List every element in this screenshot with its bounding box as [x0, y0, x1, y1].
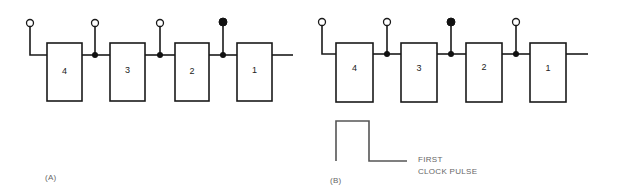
figure-a-output-open-circle-icon	[27, 20, 34, 27]
figure-a-output-open-circle-icon	[157, 20, 164, 27]
figure-b-output-open-circle-icon	[319, 19, 326, 26]
figure-a-output-filled-circle-icon	[219, 18, 227, 26]
clock-pulse-waveform	[336, 121, 407, 161]
figure-a-junction-dot	[157, 52, 163, 58]
figure-a-input-wire	[30, 26, 47, 55]
figure-a-output-open-circle-icon	[92, 20, 99, 27]
figure-b-output-filled-circle-icon	[447, 18, 455, 26]
figure-b-stage-label: 3	[416, 63, 421, 73]
figure-a-stage-label: 3	[125, 65, 130, 75]
figure-b-stage-label: 4	[352, 63, 357, 73]
figure-b-output-open-circle-icon	[513, 19, 520, 26]
clock-pulse-caption-line1: FIRST	[418, 155, 443, 164]
figure-b-junction-dot	[384, 51, 390, 57]
figure-a-stage-label: 2	[189, 66, 194, 76]
figure-b-junction-dot	[448, 51, 454, 57]
figure-b-stage-label: 1	[545, 63, 550, 73]
figure-b-caption: (B)	[330, 176, 342, 185]
clock-pulse-caption-line2: CLOCK PULSE	[418, 167, 477, 176]
figure-a-junction-dot	[220, 52, 226, 58]
figure-b-stage-label: 2	[481, 62, 486, 72]
figure-a-caption: (A)	[45, 173, 57, 182]
shift-register-diagram: 4 3 2 1 (A) 4 3 2 1 FIRST CLOCK PULSE	[0, 0, 617, 192]
figure-a-junction-dot	[92, 52, 98, 58]
figure-b-junction-dot	[513, 51, 519, 57]
figure-b-output-open-circle-icon	[384, 19, 391, 26]
figure-b-stage-box-2	[466, 43, 502, 102]
figure-b: 4 3 2 1 FIRST CLOCK PULSE (B)	[319, 18, 589, 185]
figure-b-input-wire	[322, 26, 336, 54]
figure-a: 4 3 2 1 (A)	[27, 18, 294, 182]
figure-a-stage-label: 4	[62, 66, 67, 76]
figure-a-stage-label: 1	[252, 65, 257, 75]
